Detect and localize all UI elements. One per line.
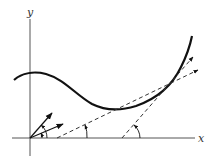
y-axis-label: y <box>26 6 34 19</box>
angle-arc-origin-small <box>41 133 42 138</box>
diagram-canvas: y x <box>0 0 215 162</box>
x-axis-label: x <box>198 132 205 145</box>
curve <box>14 36 192 109</box>
angle-arc-tangent-1 <box>85 125 87 138</box>
tangent-line-2 <box>122 57 193 138</box>
tangent-line-1 <box>57 70 198 138</box>
angle-arc-tangent-2 <box>134 125 140 138</box>
